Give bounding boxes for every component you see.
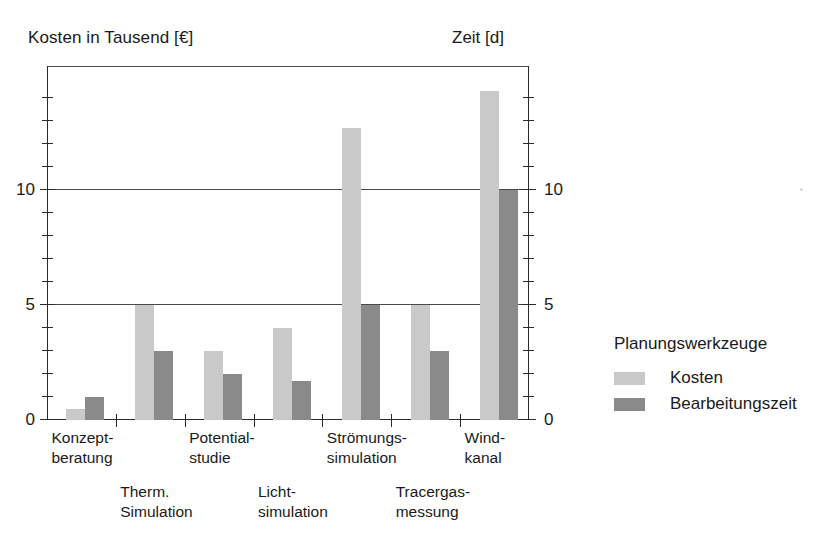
right-tick-13 [523, 120, 534, 121]
right-tick-2 [523, 373, 534, 374]
x-axis-tick-3 [254, 414, 255, 427]
category-label-line2: studie [189, 448, 254, 468]
category-label-5: Tracergas-messung [396, 482, 470, 522]
bar-kosten-5 [411, 305, 430, 420]
left-tick-0 [40, 419, 55, 420]
right-tick-10 [521, 189, 536, 190]
right-tick-11 [523, 166, 534, 167]
gridline-5 [47, 304, 529, 305]
bar-kosten-2 [204, 351, 223, 420]
chart-legend: Planungswerkzeuge KostenBearbeitungszeit [614, 334, 797, 420]
left-tick-label-10: 10 [0, 181, 35, 198]
category-label-line1: Tracergas- [396, 483, 470, 500]
right-tick-9 [523, 212, 534, 213]
right-tick-0 [521, 419, 536, 420]
left-tick-5 [40, 304, 55, 305]
left-tick-4 [42, 327, 53, 328]
category-label-2: Potential-studie [189, 428, 254, 468]
x-axis-tick-2 [185, 414, 186, 427]
category-label-line1: Wind- [465, 429, 505, 446]
x-axis-tick-4 [322, 414, 323, 427]
legend-entry-0[interactable]: Kosten [614, 368, 797, 388]
left-tick-label-5: 5 [0, 296, 35, 313]
right-axis-spine [528, 66, 529, 420]
legend-title: Planungswerkzeuge [614, 334, 797, 354]
category-label-line1: Konzept- [51, 429, 113, 446]
category-label-6: Wind-kanal [465, 428, 505, 468]
x-axis-tick-1 [116, 414, 117, 427]
right-tick-5 [521, 304, 536, 305]
right-tick-12 [523, 143, 534, 144]
legend-label-0: Kosten [670, 368, 723, 388]
plot-top-border [47, 66, 529, 67]
x-axis-tick-6 [460, 414, 461, 427]
x-axis-tick-5 [391, 414, 392, 427]
category-label-0: Konzept-beratung [51, 428, 113, 468]
left-tick-3 [42, 350, 53, 351]
right-axis-title: Zeit [d] [452, 28, 504, 48]
right-tick-label-0: 0 [544, 411, 584, 428]
scan-speck [800, 188, 803, 191]
legend-swatch-kosten [614, 372, 645, 385]
bar-bearbeitungszeit-2 [223, 374, 242, 420]
chart-plot-area: 00551010 [47, 66, 529, 420]
left-tick-12 [42, 143, 53, 144]
gridline-10 [47, 189, 529, 190]
left-tick-2 [42, 373, 53, 374]
right-tick-1 [523, 396, 534, 397]
left-tick-9 [42, 212, 53, 213]
category-label-3: Licht-simulation [258, 482, 328, 522]
right-tick-label-10: 10 [544, 181, 584, 198]
category-label-line2: simulation [258, 502, 328, 522]
right-tick-8 [523, 235, 534, 236]
left-tick-6 [42, 281, 53, 282]
left-tick-7 [42, 258, 53, 259]
bar-kosten-3 [273, 328, 292, 420]
bar-bearbeitungszeit-0 [85, 397, 104, 420]
bar-bearbeitungszeit-4 [361, 305, 380, 420]
left-tick-8 [42, 235, 53, 236]
category-label-4: Strömungs-simulation [327, 428, 407, 468]
legend-swatch-bearbeitungszeit [614, 398, 645, 411]
legend-label-1: Bearbeitungszeit [670, 394, 797, 414]
category-label-line2: kanal [465, 448, 505, 468]
category-label-line2: Simulation [120, 502, 192, 522]
bar-bearbeitungszeit-3 [292, 381, 311, 420]
legend-entries: KostenBearbeitungszeit [614, 368, 797, 414]
category-label-line2: messung [396, 502, 470, 522]
bar-bearbeitungszeit-1 [154, 351, 173, 420]
category-label-line1: Strömungs- [327, 429, 407, 446]
left-tick-11 [42, 166, 53, 167]
bar-kosten-1 [135, 305, 154, 420]
category-label-line1: Therm. [120, 483, 169, 500]
left-tick-1 [42, 396, 53, 397]
category-label-line2: beratung [51, 448, 113, 468]
category-label-1: Therm.Simulation [120, 482, 192, 522]
right-tick-7 [523, 258, 534, 259]
left-axis-title: Kosten in Tausend [€] [28, 28, 193, 48]
left-tick-14 [42, 97, 53, 98]
left-tick-10 [40, 189, 55, 190]
left-tick-label-0: 0 [0, 411, 35, 428]
left-axis-spine [47, 66, 48, 420]
category-label-line2: simulation [327, 448, 407, 468]
legend-entry-1[interactable]: Bearbeitungszeit [614, 394, 797, 414]
bar-bearbeitungszeit-5 [430, 351, 449, 420]
right-tick-label-5: 5 [544, 296, 584, 313]
right-tick-3 [523, 350, 534, 351]
bar-kosten-6 [480, 91, 499, 420]
category-label-line1: Licht- [258, 483, 296, 500]
bar-bearbeitungszeit-6 [499, 190, 518, 420]
left-tick-13 [42, 120, 53, 121]
bar-kosten-0 [66, 409, 85, 420]
bar-kosten-4 [342, 128, 361, 420]
right-tick-14 [523, 97, 534, 98]
right-tick-4 [523, 327, 534, 328]
category-label-line1: Potential- [189, 429, 254, 446]
right-tick-6 [523, 281, 534, 282]
